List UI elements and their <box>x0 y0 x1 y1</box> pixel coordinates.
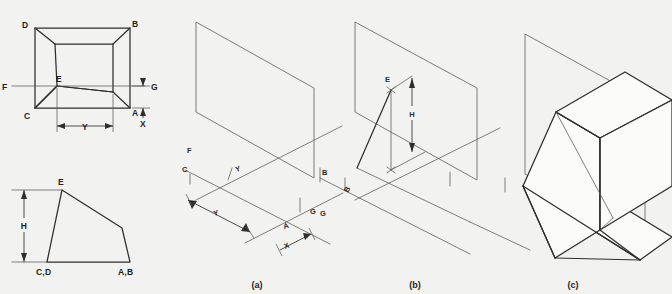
front-view-dim-label-h: H <box>21 221 27 231</box>
panel-a-label-a: A <box>282 221 290 231</box>
top-view-dim-label-x: X <box>140 119 146 129</box>
top-view-label-g: G <box>151 82 158 92</box>
front-view-label-cd: C,D <box>36 267 51 277</box>
top-view-corner-line-b <box>113 28 130 44</box>
panel-b-label-g: G <box>320 209 326 218</box>
front-view-dim-arrow-h-top <box>21 190 27 199</box>
panel-a-plane <box>196 22 314 178</box>
panel-a: Y X F C Y A G B (a) <box>182 22 343 290</box>
panel-a-ext-left <box>186 194 192 206</box>
panel-a-dim-arrow-x <box>303 233 311 240</box>
panel-b-dim-label-h: H <box>409 110 414 119</box>
panel-b-line-base-h <box>391 152 425 170</box>
panel-a-ext-x-left <box>276 244 282 256</box>
top-view-inner-quad <box>55 44 113 92</box>
top-view-corner-line-d <box>35 28 55 44</box>
panel-b-label-e: E <box>385 75 390 84</box>
panel-c-front-triangle <box>523 112 600 258</box>
front-view: H E C,D A,B <box>12 177 133 277</box>
top-view-label-d: D <box>22 20 28 30</box>
panel-b-plane <box>355 22 477 180</box>
panel-b-label-b: B <box>342 184 353 194</box>
panel-a-label-y-upper: Y <box>234 164 241 174</box>
panel-a-tick-y <box>228 168 232 180</box>
panel-a-dim-label-x: X <box>283 241 291 251</box>
top-view-dim-arrow-x-up <box>140 108 146 116</box>
panel-a-dim-label-y-lower: Y <box>212 208 219 218</box>
top-view-dim-arrow-x-down <box>140 78 146 86</box>
front-view-label-e: E <box>58 177 64 187</box>
panel-c: (c) <box>470 34 672 290</box>
top-view-label-c: C <box>24 111 30 121</box>
panel-c-edge-lower-right <box>555 258 640 260</box>
panel-a-base-line-cross <box>245 193 343 243</box>
panel-a-caption: (a) <box>252 280 263 290</box>
top-view-dim-label-y: Y <box>82 122 88 132</box>
top-view-label-f: F <box>2 82 7 92</box>
drawing-sheet: Y X D B C A E F G H E C,D A,B <box>0 0 672 294</box>
panel-a-label-f: F <box>187 146 192 155</box>
panel-b-caption: (b) <box>409 280 421 290</box>
panel-a-base-line-right <box>196 126 342 200</box>
panel-a-ext-right <box>246 226 254 238</box>
panel-b-base-diag <box>357 168 470 222</box>
top-view-corner-line-a <box>113 92 130 108</box>
top-view-label-a: A <box>132 108 138 118</box>
top-view: Y X D B C A E F G <box>2 19 158 132</box>
panel-b-dim-arrow-h-top <box>409 78 415 88</box>
top-view-dim-arrow-y-right <box>105 123 113 129</box>
top-view-label-b: B <box>132 19 138 29</box>
panel-a-label-b: B <box>322 168 328 177</box>
front-view-outline <box>47 190 130 262</box>
panel-a-base-line-left <box>185 170 330 244</box>
front-view-label-ab: A,B <box>118 267 133 277</box>
top-view-edge-ce <box>35 86 57 108</box>
panel-c-caption: (c) <box>568 280 579 290</box>
top-view-dim-arrow-y-left <box>57 123 65 129</box>
panel-c-ground-line <box>470 222 530 250</box>
top-view-ridge-e <box>57 86 113 92</box>
panel-b-dim-arrow-h-bottom <box>409 143 415 152</box>
panel-b: H E B G (b) <box>320 22 500 290</box>
panel-a-label-g: G <box>310 207 316 216</box>
front-view-dim-arrow-h-bottom <box>21 253 27 262</box>
top-view-label-e: E <box>56 74 62 84</box>
panel-b-base-line-right <box>355 128 500 200</box>
panel-a-label-c: C <box>182 165 188 174</box>
